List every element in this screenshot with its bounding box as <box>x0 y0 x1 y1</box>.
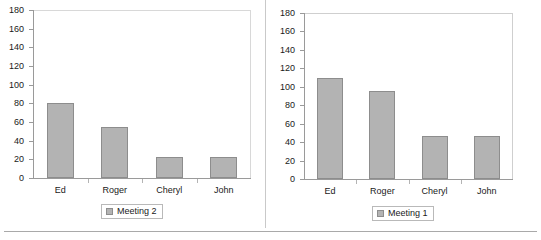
plot-area-left: 020406080100120140160180 <box>33 10 251 179</box>
x-tick <box>356 180 357 184</box>
x-category-label: John <box>477 186 497 196</box>
y-tick: 20 <box>300 161 304 162</box>
bar <box>156 157 183 178</box>
legend-left: Meeting 2 <box>101 204 163 219</box>
x-tick <box>197 179 198 183</box>
page-divider-horizontal <box>4 231 537 232</box>
x-category-label: Roger <box>370 186 395 196</box>
y-tick-label: 100 <box>9 80 24 89</box>
y-axis-right <box>304 13 305 180</box>
bar <box>474 136 500 179</box>
y-tick: 0 <box>29 178 33 179</box>
y-tick-label: 0 <box>290 175 295 184</box>
y-tick-label: 140 <box>9 43 24 52</box>
y-tick: 40 <box>29 141 33 142</box>
y-tick-label: 20 <box>14 155 24 164</box>
chart-page: 020406080100120140160180 EdRogerCherylJo… <box>0 0 541 240</box>
y-tick: 160 <box>300 31 304 32</box>
y-tick: 140 <box>300 50 304 51</box>
chart-panel-meeting-1: 020406080100120140160180 EdRogerCherylJo… <box>262 0 541 228</box>
y-tick: 100 <box>29 85 33 86</box>
x-tick <box>88 179 89 183</box>
y-axis-left <box>33 10 34 179</box>
x-category-label: Ed <box>325 186 336 196</box>
y-tick: 0 <box>300 179 304 180</box>
y-tick-label: 60 <box>14 118 24 127</box>
y-tick-label: 160 <box>9 24 24 33</box>
y-tick-label: 140 <box>280 45 295 54</box>
y-tick: 140 <box>29 47 33 48</box>
x-tick <box>409 180 410 184</box>
bar <box>422 136 448 179</box>
chart-panel-meeting-2: 020406080100120140160180 EdRogerCherylJo… <box>0 0 262 228</box>
bar <box>47 103 74 178</box>
y-tick: 120 <box>300 68 304 69</box>
y-tick: 60 <box>29 122 33 123</box>
bar <box>369 91 395 179</box>
x-tick <box>461 180 462 184</box>
bar <box>317 78 343 179</box>
bar <box>210 157 237 178</box>
x-category-label: Ed <box>55 185 66 195</box>
legend-right: Meeting 1 <box>372 206 434 221</box>
y-tick: 120 <box>29 66 33 67</box>
y-tick-label: 0 <box>19 174 24 183</box>
y-tick-label: 180 <box>280 9 295 18</box>
y-tick-label: 40 <box>285 138 295 147</box>
legend-label: Meeting 2 <box>117 206 157 216</box>
y-tick-label: 60 <box>285 119 295 128</box>
y-tick-label: 180 <box>9 6 24 15</box>
legend-swatch-icon <box>377 210 384 217</box>
y-tick-label: 160 <box>280 27 295 36</box>
y-tick-label: 80 <box>285 101 295 110</box>
y-tick: 60 <box>300 124 304 125</box>
y-tick-label: 120 <box>280 64 295 73</box>
y-tick: 180 <box>300 13 304 14</box>
y-tick: 160 <box>29 29 33 30</box>
y-tick-label: 80 <box>14 99 24 108</box>
y-tick-label: 20 <box>285 156 295 165</box>
y-tick: 180 <box>29 10 33 11</box>
y-tick-label: 100 <box>280 82 295 91</box>
legend-swatch-icon <box>106 208 113 215</box>
x-tick <box>142 179 143 183</box>
y-tick: 100 <box>300 87 304 88</box>
x-category-label: Roger <box>102 185 127 195</box>
legend-label: Meeting 1 <box>388 208 428 218</box>
bar <box>101 127 128 178</box>
panel-divider-vertical <box>265 0 266 228</box>
x-category-label: Cheryl <box>422 186 448 196</box>
plot-area-right: 020406080100120140160180 <box>304 13 513 180</box>
y-tick-label: 40 <box>14 136 24 145</box>
x-category-label: Cheryl <box>156 185 182 195</box>
y-tick: 40 <box>300 142 304 143</box>
y-tick: 80 <box>300 105 304 106</box>
y-tick: 80 <box>29 103 33 104</box>
y-tick: 20 <box>29 159 33 160</box>
x-category-label: John <box>214 185 234 195</box>
y-tick-label: 120 <box>9 62 24 71</box>
